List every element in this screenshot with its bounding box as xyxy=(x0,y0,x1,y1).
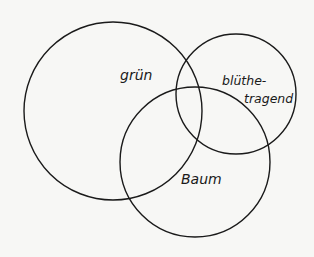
label-gruen: grün xyxy=(120,67,152,83)
set-circle-gruen xyxy=(24,22,202,200)
venn-diagram: grün blüthe- tragend Baum xyxy=(0,0,314,257)
label-tragend: tragend xyxy=(244,91,293,106)
label-bluethe: blüthe- xyxy=(222,73,267,88)
set-circle-baum xyxy=(120,87,270,237)
label-baum: Baum xyxy=(181,171,222,187)
